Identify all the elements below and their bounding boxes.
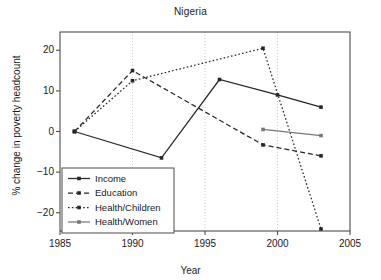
legend-label: Health/Children [95, 202, 160, 213]
legend-label: Education [95, 187, 137, 198]
legend-label: Health/Women [95, 216, 158, 227]
chart-plot: IncomeEducationHealth/ChildrenHealth/Wom… [0, 0, 381, 280]
legend-label: Income [95, 173, 126, 184]
